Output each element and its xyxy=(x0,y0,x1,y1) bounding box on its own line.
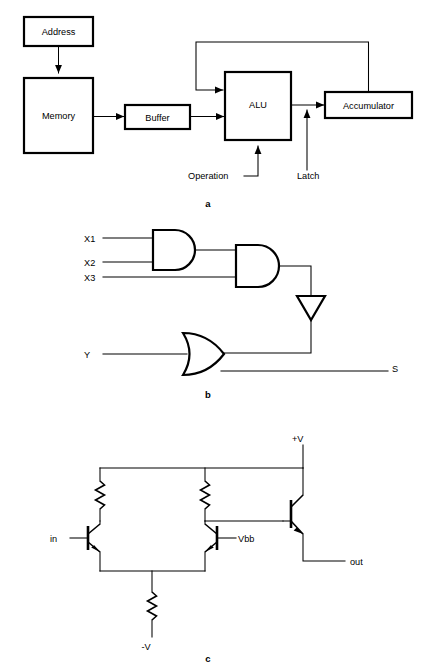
and-gate-1[interactable] xyxy=(153,230,195,270)
transistor-q2[interactable] xyxy=(205,521,236,571)
input-label-x1: X1 xyxy=(84,234,95,244)
inverter-body xyxy=(297,296,325,320)
block-accumulator[interactable]: Accumulator xyxy=(325,92,412,118)
circuit-figure: Address Memory Buffer xyxy=(0,0,421,669)
resistor-rc1 xyxy=(96,468,105,521)
panel-c: +V xyxy=(50,434,363,664)
or-gate-body xyxy=(183,333,224,375)
block-buffer[interactable]: Buffer xyxy=(125,105,190,129)
operation-label: Operation xyxy=(188,171,228,181)
block-alu[interactable]: ALU xyxy=(225,72,291,140)
terminal-label-in: in xyxy=(50,534,57,544)
address-label: Address xyxy=(42,27,76,37)
input-label-y: Y xyxy=(84,350,90,360)
transistor-q1[interactable] xyxy=(70,521,100,571)
transistor-q3[interactable] xyxy=(283,468,345,561)
and-gate-1-body xyxy=(153,230,195,270)
caption-a: a xyxy=(205,198,211,209)
signal-latch: Latch xyxy=(297,110,319,181)
and-gate-2-body xyxy=(236,245,279,287)
wire-inverter-to-or xyxy=(224,320,311,353)
resistor-rc2 xyxy=(201,468,210,521)
panel-a: Address Memory Buffer xyxy=(24,17,412,209)
terminal-label-out: out xyxy=(350,557,363,567)
wire-and2-to-inverter xyxy=(279,266,311,296)
latch-label: Latch xyxy=(297,171,319,181)
alu-label: ALU xyxy=(249,100,267,110)
input-label-x2: X2 xyxy=(84,258,95,268)
and-gate-2[interactable] xyxy=(236,245,279,287)
or-gate[interactable] xyxy=(183,333,224,375)
caption-c: c xyxy=(205,653,210,664)
block-memory[interactable]: Memory xyxy=(24,78,93,153)
inverter-gate[interactable] xyxy=(297,296,325,320)
signal-operation: Operation xyxy=(188,146,258,181)
figure-root: Address Memory Buffer xyxy=(0,0,421,669)
accumulator-label: Accumulator xyxy=(343,101,394,111)
supply-label-negative: -V xyxy=(141,642,151,652)
buffer-label: Buffer xyxy=(145,113,169,123)
memory-label: Memory xyxy=(42,111,76,121)
block-address[interactable]: Address xyxy=(24,17,93,46)
output-label-s: S xyxy=(392,364,398,374)
panel-b: X1 X2 X3 Y S xyxy=(84,230,398,400)
caption-b: b xyxy=(205,389,211,400)
terminal-label-vbb: Vbb xyxy=(238,534,254,544)
input-label-x3: X3 xyxy=(84,273,95,283)
resistor-re xyxy=(148,571,157,637)
supply-label-positive: +V xyxy=(292,434,304,444)
